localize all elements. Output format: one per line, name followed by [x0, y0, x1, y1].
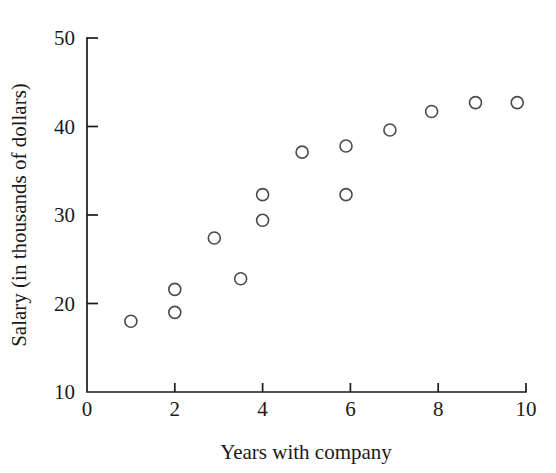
scatter-plot-figure: 0246810 1020304050 Years with company Sa… — [0, 0, 556, 473]
x-axis-tick-marks — [175, 383, 526, 392]
data-point — [235, 273, 247, 285]
axis-lines — [87, 38, 526, 392]
y-tick-label: 20 — [54, 292, 75, 316]
axes-group — [87, 38, 526, 392]
x-tick-label: 2 — [170, 397, 181, 421]
y-axis-tick-labels: 1020304050 — [54, 26, 75, 404]
y-tick-label: 40 — [54, 115, 75, 139]
plot-canvas: 0246810 1020304050 Years with company Sa… — [0, 0, 556, 473]
x-tick-label: 10 — [516, 397, 537, 421]
data-point — [511, 97, 523, 109]
y-tick-label: 30 — [54, 203, 75, 227]
data-point — [169, 283, 181, 295]
x-tick-label: 0 — [82, 397, 93, 421]
data-point — [470, 97, 482, 109]
y-axis-title: Salary (in thousands of dollars) — [7, 83, 31, 347]
data-point — [125, 315, 137, 327]
data-point — [384, 124, 396, 136]
data-point — [257, 189, 269, 201]
data-point — [208, 232, 220, 244]
data-point — [426, 105, 438, 117]
data-point — [296, 146, 308, 158]
x-tick-label: 6 — [345, 397, 356, 421]
data-point — [340, 140, 352, 152]
x-axis-tick-labels: 0246810 — [82, 397, 537, 421]
y-axis-tick-marks — [87, 38, 98, 304]
y-tick-label: 10 — [54, 380, 75, 404]
data-point — [340, 189, 352, 201]
x-tick-label: 8 — [433, 397, 444, 421]
x-axis-title: Years with company — [220, 440, 392, 464]
x-tick-label: 4 — [257, 397, 268, 421]
data-point — [169, 306, 181, 318]
data-point — [257, 214, 269, 226]
data-point-group — [125, 97, 523, 328]
y-tick-label: 50 — [54, 26, 75, 50]
